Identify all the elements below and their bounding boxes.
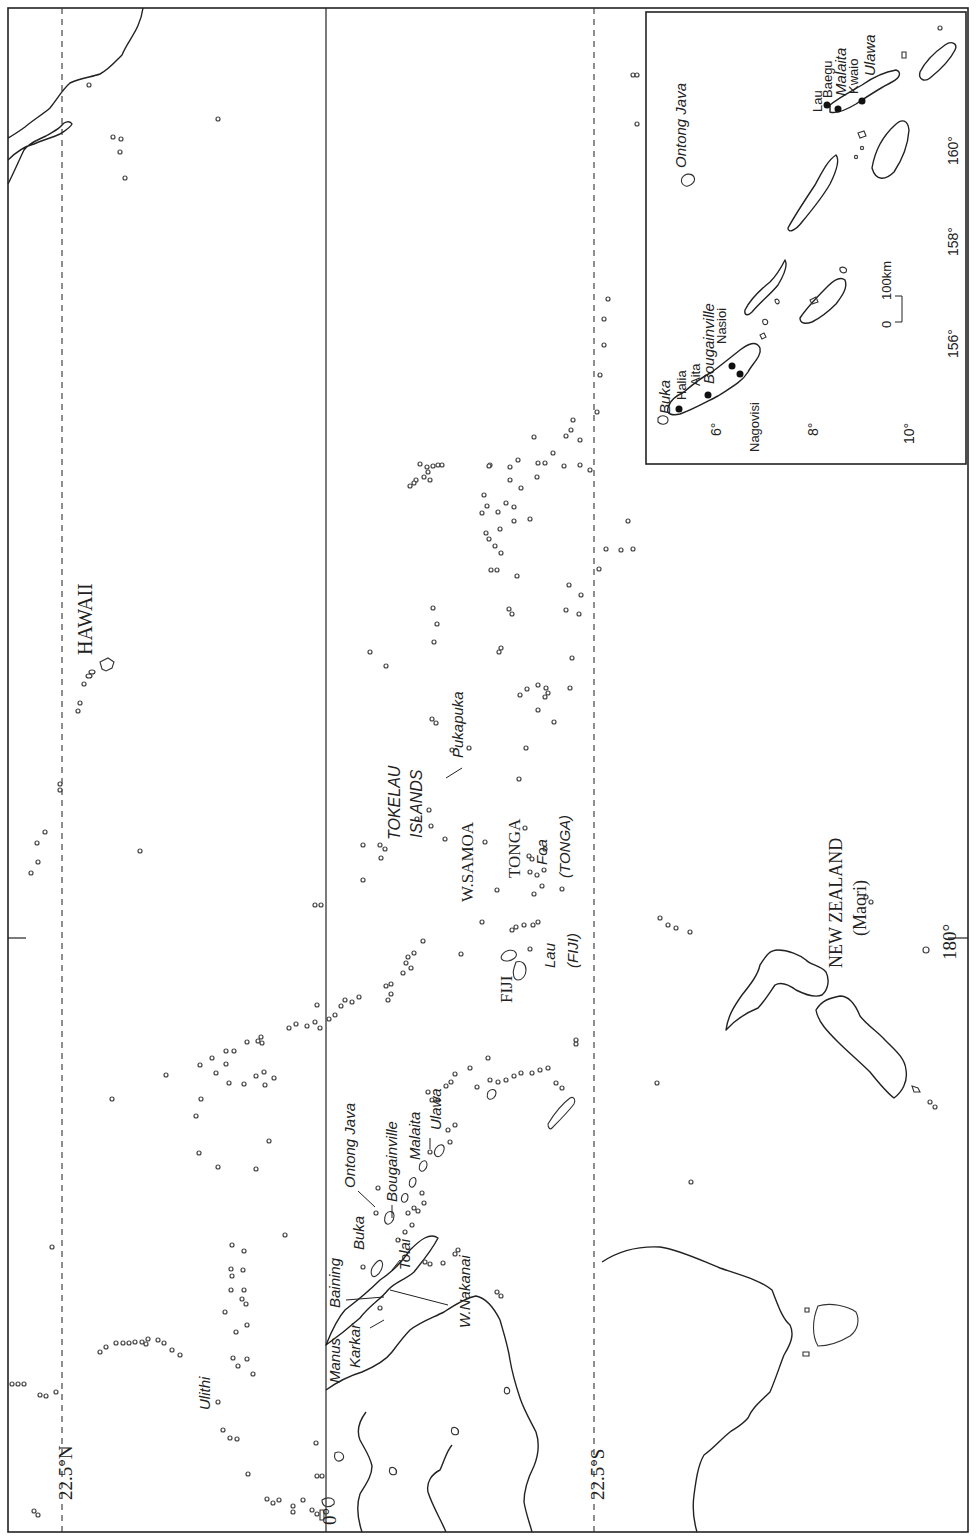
marker-baegu	[835, 106, 842, 113]
fiji-paren-label: (FIJI)	[564, 933, 581, 968]
baining-label: Baining	[326, 1257, 343, 1308]
borneo-coast	[358, 1412, 372, 1532]
inset-choiseul	[745, 260, 786, 315]
inset-guadalcanal	[872, 121, 909, 178]
marker-aita	[705, 392, 712, 399]
scale-length-label: 100km	[879, 261, 894, 300]
marker-nagovisi	[737, 371, 744, 378]
inset-frame	[646, 12, 966, 464]
inset-santa-isabel	[788, 155, 838, 231]
inset-lon-156-label: 156°	[945, 329, 961, 358]
new-zealand-label: NEW ZEALAND	[826, 838, 846, 968]
bougainville-label: Bougainville	[383, 1121, 400, 1202]
north-america-coast	[8, 8, 143, 138]
manus-label: Manus	[326, 1337, 343, 1383]
inset-halia-label: Halia	[674, 370, 689, 400]
inset-nagovisi-label: Nagovisi	[747, 402, 762, 452]
scale-zero-label: 0	[879, 321, 894, 328]
pacific-map: 22.5°N 0° 22.5°S 180° HAWAII TOKELAU ISL…	[0, 0, 976, 1540]
islands-label: ISLANDS	[408, 769, 425, 838]
inset-ontong-java-label: Ontong Java	[672, 83, 689, 168]
island-dots	[10, 73, 693, 1517]
ulawa-label: Ulawa	[427, 1088, 444, 1130]
inset-makira	[920, 43, 956, 80]
tokelau-label: TOKELAU	[386, 765, 403, 840]
fiji-islands	[501, 950, 526, 980]
inset-buka-label: Buka	[656, 380, 673, 414]
malaita-label: Malaita	[406, 1112, 423, 1160]
ulithi-label: Ulithi	[196, 1376, 213, 1410]
inset-lat-8-label: 8°	[805, 423, 821, 436]
tonga-label: TONGA	[505, 818, 524, 878]
hawaii-label: HAWAII	[74, 583, 96, 655]
australia-coast	[602, 1247, 792, 1532]
inset-nasioi-label: Nasioi	[714, 308, 729, 344]
marker-halia	[676, 406, 683, 413]
pukapuka-label: Pukapuka	[449, 691, 466, 758]
scale-bar	[895, 296, 902, 322]
lau-label: Lau	[541, 942, 558, 968]
inset-kwaio-label: Kwaio	[846, 59, 861, 94]
lat-22-5N-label: 22.5°N	[55, 1445, 76, 1500]
inset-map: 0 100km 6° 8° 10° 156° 158° 160° Buka Ha…	[635, 12, 966, 464]
inset-ulawa-label: Ulawa	[861, 34, 878, 76]
foa-label: Foa	[533, 839, 550, 865]
lat-0-label: 0°	[319, 1508, 340, 1525]
tasmania	[814, 1304, 859, 1346]
hawaii-islands	[76, 658, 114, 713]
inset-lat-10-label: 10°	[901, 423, 917, 444]
marker-kwaio	[859, 98, 866, 105]
sulawesi-coast	[428, 1445, 452, 1532]
lon-180-label: 180°	[939, 924, 960, 960]
inset-lat-6-label: 6°	[708, 423, 724, 436]
lat-22-5S-label: 22.5°S	[587, 1449, 608, 1500]
tonga-paren-label: (TONGA)	[556, 815, 573, 878]
karkar-label: Karkar	[346, 1323, 363, 1368]
w-samoa-label: W.SAMOA	[458, 821, 477, 902]
inset-lon-158-label: 158°	[945, 227, 961, 256]
fiji-label: FIJI	[497, 975, 516, 1003]
w-nakanai-label: W.Nakanai	[456, 1255, 473, 1328]
inset-lon-160-label: 160°	[945, 136, 961, 165]
inset-ontong-java	[681, 174, 694, 186]
buka-label: Buka	[350, 1216, 367, 1250]
maori-label: (Maori)	[850, 880, 871, 936]
marker-nasioi	[729, 363, 736, 370]
tolai-label: Tolai	[396, 1238, 413, 1270]
ontong-java-label: Ontong Java	[341, 1103, 358, 1188]
inset-new-georgia	[800, 278, 846, 323]
